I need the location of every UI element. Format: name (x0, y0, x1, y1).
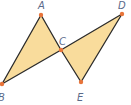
geometry-diagram: ABCDE (0, 0, 131, 105)
triangle-abc (2, 15, 61, 84)
point-a-label: A (37, 0, 45, 11)
point-e-dot (79, 80, 83, 84)
point-d-label: D (118, 0, 126, 11)
point-c-label: C (59, 36, 66, 47)
point-a-dot (39, 13, 43, 17)
point-e-label: E (77, 92, 84, 103)
point-b-dot (0, 82, 4, 86)
point-d-dot (120, 12, 124, 16)
point-b-label: B (0, 92, 5, 103)
triangle-cde (61, 14, 122, 82)
point-c-dot (59, 48, 63, 52)
